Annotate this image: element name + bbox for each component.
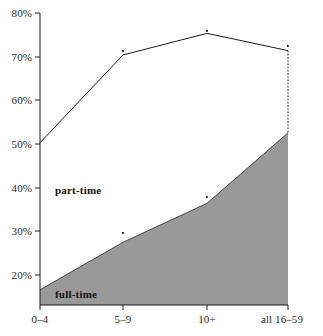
data-point-marker <box>122 50 124 52</box>
y-axis-tick-label-60: 60% <box>0 95 32 106</box>
total-line <box>40 33 288 142</box>
x-axis-tick-label-10-plus: 10+ <box>183 314 231 325</box>
part-time-label: part-time <box>55 185 101 196</box>
data-point-marker <box>206 196 208 198</box>
y-axis-tick-label-20: 20% <box>0 270 32 281</box>
area-chart-plot <box>0 0 323 336</box>
y-axis-tick-label-30: 30% <box>0 226 32 237</box>
x-axis-tick-label-5-9: 5–9 <box>99 314 147 325</box>
full-time-label: full-time <box>55 289 97 300</box>
data-point-marker <box>287 45 289 47</box>
y-axis-tick-label-80: 80% <box>0 8 32 19</box>
y-axis-tick-label-40: 40% <box>0 183 32 194</box>
x-axis-tick-label-0-4: 0–4 <box>16 314 64 325</box>
x-axis-tick-label-all-16-59: all 16–59 <box>244 314 320 325</box>
y-axis-tick-label-50: 50% <box>0 139 32 150</box>
data-point-marker <box>122 232 124 234</box>
y-axis-tick-label-70: 70% <box>0 52 32 63</box>
data-point-marker <box>206 30 208 32</box>
chart-container: 80% 70% 60% 50% 40% 30% 20% 0–4 5–9 10+ … <box>0 0 323 336</box>
full-time-area <box>40 133 288 305</box>
